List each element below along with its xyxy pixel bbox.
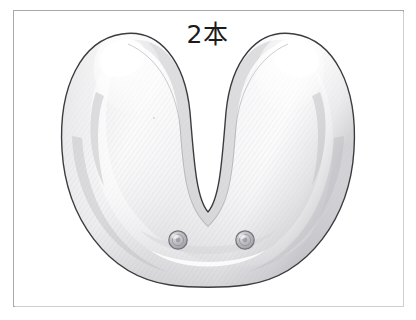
print-speck <box>153 117 155 119</box>
implant-left[interactable] <box>169 231 187 249</box>
arch-body <box>50 24 370 295</box>
figure-caption: 2本 <box>0 20 416 50</box>
figure-root: 2本 <box>0 0 416 320</box>
implant-right[interactable] <box>236 231 254 249</box>
